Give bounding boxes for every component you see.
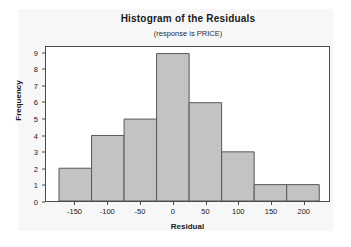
histogram-bar <box>189 103 222 201</box>
x-axis-label: Residual <box>45 222 330 231</box>
x-tick-label: 50 <box>201 207 209 216</box>
histogram-bars <box>46 47 329 201</box>
histogram-bar <box>59 168 92 201</box>
y-tick-mark <box>42 202 45 203</box>
y-tick-mark <box>42 52 45 53</box>
y-tick-mark <box>42 168 45 169</box>
y-axis-label: Frequency <box>14 61 23 141</box>
y-tick-label: 1 <box>34 181 38 190</box>
histogram-figure: Histogram of the Residuals (response is … <box>0 0 351 247</box>
x-tick-mark <box>206 202 207 205</box>
y-tick-label: 9 <box>34 48 38 57</box>
y-tick-mark <box>42 152 45 153</box>
x-tick-mark <box>238 202 239 205</box>
x-tick-label: -150 <box>67 207 82 216</box>
x-tick-mark <box>107 202 108 205</box>
histogram-bar <box>92 135 125 201</box>
x-tick-label: -100 <box>100 207 115 216</box>
y-tick-label: 7 <box>34 81 38 90</box>
chart-subtitle: (response is PRICE) <box>45 29 331 38</box>
histogram-bar <box>222 152 255 201</box>
x-tick-label: 150 <box>265 207 278 216</box>
y-tick-label: 5 <box>34 115 38 124</box>
y-tick-mark <box>42 185 45 186</box>
x-tick-mark <box>173 202 174 205</box>
x-tick-label: 100 <box>232 207 245 216</box>
y-tick-mark <box>42 119 45 120</box>
x-tick-label: 0 <box>171 207 175 216</box>
x-tick-label: -50 <box>135 207 146 216</box>
y-tick-label: 4 <box>34 131 38 140</box>
histogram-bar <box>124 119 157 201</box>
y-tick-label: 2 <box>34 164 38 173</box>
x-tick-label: 200 <box>298 207 311 216</box>
plot-area <box>46 47 329 201</box>
x-tick-mark <box>140 202 141 205</box>
chart-title: Histogram of the Residuals <box>45 13 331 24</box>
y-tick-mark <box>42 85 45 86</box>
x-tick-mark <box>74 202 75 205</box>
plot-frame <box>45 46 330 202</box>
y-tick-mark <box>42 102 45 103</box>
y-tick-mark <box>42 69 45 70</box>
histogram-bar <box>287 185 320 201</box>
y-axis-ticks: 0123456789 <box>0 0 45 247</box>
y-tick-label: 0 <box>34 198 38 207</box>
y-tick-label: 6 <box>34 98 38 107</box>
y-tick-label: 8 <box>34 65 38 74</box>
y-tick-mark <box>42 135 45 136</box>
y-tick-label: 3 <box>34 148 38 157</box>
histogram-bar <box>157 54 190 201</box>
x-tick-mark <box>271 202 272 205</box>
x-tick-mark <box>304 202 305 205</box>
histogram-bar <box>254 185 287 201</box>
